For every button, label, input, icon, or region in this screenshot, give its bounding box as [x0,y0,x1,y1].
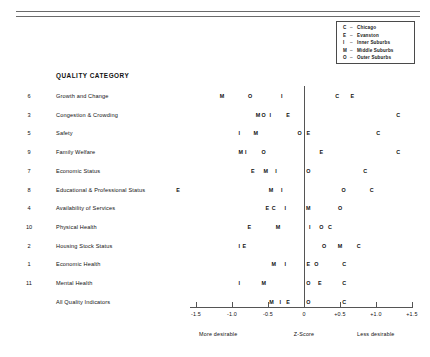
x-axis-title: Z-Score [294,331,315,337]
chart-row: 1Economic HealthMIEOC [0,261,430,271]
row-rank: 1 [22,261,36,267]
data-point-marker: C [342,261,346,267]
data-point-marker: E [176,187,180,193]
row-rank: 5 [22,130,36,136]
data-point-marker: O [248,93,252,99]
data-point-marker: M [254,130,259,136]
legend-label: Middle Suburbs [357,48,394,53]
data-point-marker: C [342,280,346,286]
legend-marker: C [343,25,350,30]
data-point-marker: E [318,280,322,286]
legend-item-middle-suburbs: M–Middle Suburbs [343,48,414,56]
data-point-marker: I [285,261,287,267]
x-tick-label: +1.5 [406,311,417,317]
data-point-marker: I [238,243,240,249]
data-point-marker: E [286,112,290,118]
data-point-marker: E [307,261,311,267]
data-point-marker: E [319,149,323,155]
legend-dash: – [350,33,357,38]
data-point-marker: C [272,205,276,211]
data-point-marker: I [281,187,283,193]
data-point-marker: I [238,280,240,286]
data-point-marker: I [285,205,287,211]
data-point-marker: M [261,280,266,286]
row-category-label: Economic Status [56,168,100,174]
data-point-marker: I [238,130,240,136]
chart-row: 6Growth and ChangeMOICE [0,93,430,103]
row-category-label: Availability of Services [56,205,115,211]
legend-marker: I [343,40,350,45]
row-rank: 9 [22,149,36,155]
x-tick-label: +1.0 [370,311,381,317]
data-point-marker: O [298,130,302,136]
legend-label: Chicago [357,25,376,30]
legend-item-inner-suburbs: I–Inner Suburbs [343,40,414,48]
data-point-marker: E [247,224,251,230]
top-divider-rule [16,11,420,17]
data-point-marker: O [306,299,310,305]
legend-label: Outer Suburbs [357,55,391,60]
data-point-marker: C [335,93,339,99]
chart-row: All Quality IndicatorsMIEOC [0,299,430,309]
legend-dash: – [350,25,357,30]
data-point-marker: E [350,93,354,99]
row-category-label: Growth and Change [56,93,109,99]
data-point-marker: M [338,243,343,249]
row-category-label: Mental Health [56,280,92,286]
data-point-marker: M [276,224,281,230]
data-point-marker: M [264,168,269,174]
data-point-marker: C [342,299,346,305]
legend-label: Evanston [357,33,379,38]
x-tick-label: -1.0 [227,311,237,317]
more-desirable-label: More desirable [199,331,237,337]
chart-row: 5SafetyIMOEC [0,130,430,140]
data-point-marker: E [242,243,246,249]
row-category-label: Family Welfare [56,149,95,155]
legend-item-chicago: C–Chicago [343,25,414,33]
chart-row: 3Congestion & CrowdingMOIEC [0,112,430,122]
data-point-marker: E [307,130,311,136]
data-point-marker: O [306,168,310,174]
data-point-marker: O [322,243,326,249]
row-rank: 3 [22,112,36,118]
row-rank: 8 [22,187,36,193]
data-point-marker: C [396,112,400,118]
chart-row: 2Housing Stock StatusIEOMC [0,243,430,253]
legend-item-outer-suburbs: O–Outer Suburbs [343,55,414,63]
data-point-marker: M [272,261,277,267]
data-point-marker: O [319,224,323,230]
data-point-marker: O [262,112,266,118]
legend-item-evanston: E–Evanston [343,33,414,41]
data-point-marker: M [269,187,274,193]
row-category-label: Economic Health [56,261,101,267]
x-tick-label: +0.5 [334,311,345,317]
row-category-label: All Quality Indicators [56,299,110,305]
data-point-marker: I [309,224,311,230]
x-tick-label: -1.5 [191,311,201,317]
row-category-label: Congestion & Crowding [56,112,118,118]
legend-box: C–ChicagoE–EvanstonI–Inner SuburbsM–Midd… [336,21,415,64]
data-point-marker: E [265,205,269,211]
data-point-marker: E [251,168,255,174]
data-point-marker: C [376,130,380,136]
row-category-label: Physical Health [56,224,97,230]
legend-dash: – [350,55,357,60]
data-point-marker: M [306,205,311,211]
row-rank: 6 [22,93,36,99]
legend-marker: E [343,33,350,38]
legend-label: Inner Suburbs [357,40,390,45]
chart-page: C–ChicagoE–EvanstonI–Inner SuburbsM–Midd… [0,0,430,357]
data-point-marker: C [396,149,400,155]
data-point-marker: C [370,187,374,193]
data-point-marker: M [256,112,261,118]
data-point-marker: O [306,280,310,286]
chart-row: 9Family WelfareMIOEC [0,149,430,159]
x-tick-label: -0.5 [263,311,273,317]
row-rank: 2 [22,243,36,249]
chart-row: 11Mental HealthIMOEC [0,280,430,290]
data-point-marker: I [281,93,283,99]
data-point-marker: I [245,149,247,155]
data-point-marker: M [238,149,243,155]
row-rank: 11 [22,280,36,286]
row-category-label: Educational & Professional Status [56,187,145,193]
